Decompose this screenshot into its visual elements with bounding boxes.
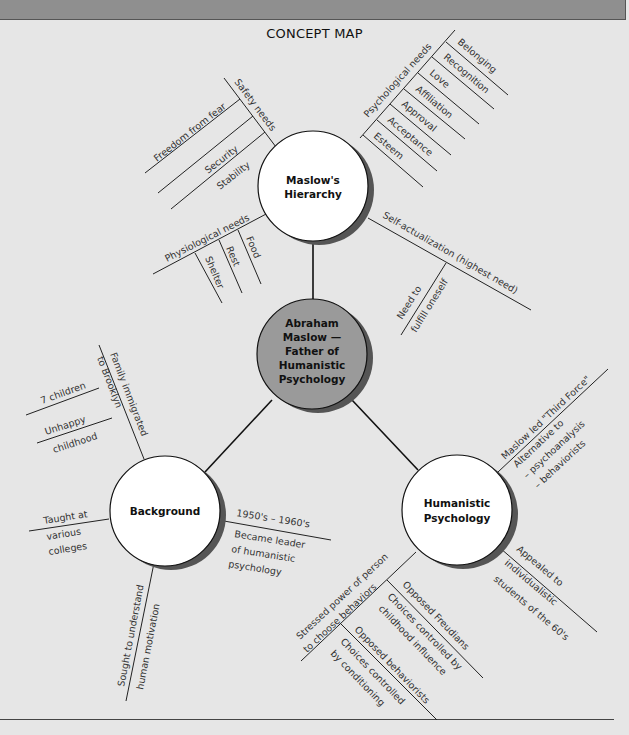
- maslow-node-line1: Maslow's: [286, 174, 340, 186]
- background-node-label: Background: [130, 505, 201, 517]
- node-background: Background: [110, 456, 226, 570]
- rest-label: Rest: [224, 244, 242, 268]
- colleges-label: colleges: [48, 540, 88, 557]
- food-label: Food: [244, 234, 263, 259]
- node-maslow-hierarchy: Maslow's Hierarchy: [258, 131, 374, 245]
- branch-third-force: Maslow led "Third Force" Alternative to …: [498, 369, 608, 490]
- center-node-line1: Abraham: [285, 317, 338, 329]
- safety-needs-label: Safety needs: [232, 77, 278, 133]
- branch-physiological-needs: Physiological needs Food Rest Shelter: [153, 212, 268, 303]
- era-label: 1950's – 1960's: [236, 507, 311, 529]
- concept-map-diagram: Safety needs Freedom from fear Security …: [0, 0, 629, 735]
- branch-behaviorists: Opposed behaviorists Choices controlled …: [329, 624, 437, 720]
- branch-family: Family immigrated to Brooklyn 7 children…: [26, 345, 150, 459]
- humanistic-node-line2: Psychology: [424, 512, 491, 524]
- branch-motivation: Sought to understand human motivation: [115, 563, 161, 701]
- branch-self-actualization: Self-actualization (highest need) Need t…: [368, 209, 531, 335]
- psychological-needs-label: Psychological needs: [361, 41, 433, 120]
- branch-appealed: Appealed to individualistic students of …: [492, 543, 597, 642]
- psychology-label: psychology: [228, 558, 283, 577]
- childhood-label: childhood: [51, 430, 98, 455]
- maslow-node-line2: Hierarchy: [284, 188, 342, 200]
- node-humanistic-psychology: Humanistic Psychology: [402, 455, 518, 569]
- branch-taught: Taught at various colleges: [29, 508, 109, 557]
- connector-center-background: [205, 400, 272, 472]
- branch-psychological-needs: Psychological needs Belonging Recognitio…: [360, 30, 508, 187]
- branch-era: 1950's – 1960's Became leader of humanis…: [224, 507, 331, 577]
- self-actualization-label: Self-actualization (highest need): [381, 209, 520, 296]
- node-center-abraham-maslow: Abraham Maslow — Father of Humanistic Ps…: [257, 299, 373, 413]
- freedom-from-fear-label: Freedom from fear: [151, 100, 227, 163]
- stressed-power-label: Stressed power of person: [294, 551, 390, 642]
- humanistic-node-line1: Humanistic: [424, 497, 490, 509]
- seven-children-label: 7 children: [39, 379, 87, 405]
- center-node-line2: Maslow —: [283, 331, 341, 343]
- center-node-line5: Psychology: [279, 373, 346, 385]
- shelter-label: Shelter: [203, 254, 226, 290]
- center-node-line3: Father of: [285, 345, 339, 357]
- connector-center-humanistic: [352, 400, 418, 470]
- center-node-line4: Humanistic: [279, 359, 345, 371]
